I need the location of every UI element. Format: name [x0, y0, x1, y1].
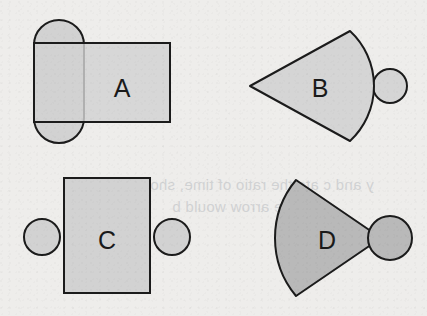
- shape-b-group: B: [250, 31, 407, 141]
- shape-d-circle: [368, 216, 412, 260]
- shape-c-circle-right: [154, 219, 190, 255]
- shape-d-group: D: [275, 180, 412, 296]
- shape-c-group: C: [24, 178, 190, 293]
- shape-a-rectangle: [34, 43, 170, 122]
- shape-b-label: B: [312, 74, 329, 102]
- shape-a-label: A: [114, 74, 131, 102]
- shape-a-group: A: [34, 20, 170, 143]
- shape-c-circle-left: [24, 219, 60, 255]
- shape-d-label: D: [318, 226, 336, 254]
- shape-c-label: C: [98, 226, 116, 254]
- shapes-figure: A B C D: [0, 0, 427, 316]
- shape-b-circle: [373, 69, 407, 103]
